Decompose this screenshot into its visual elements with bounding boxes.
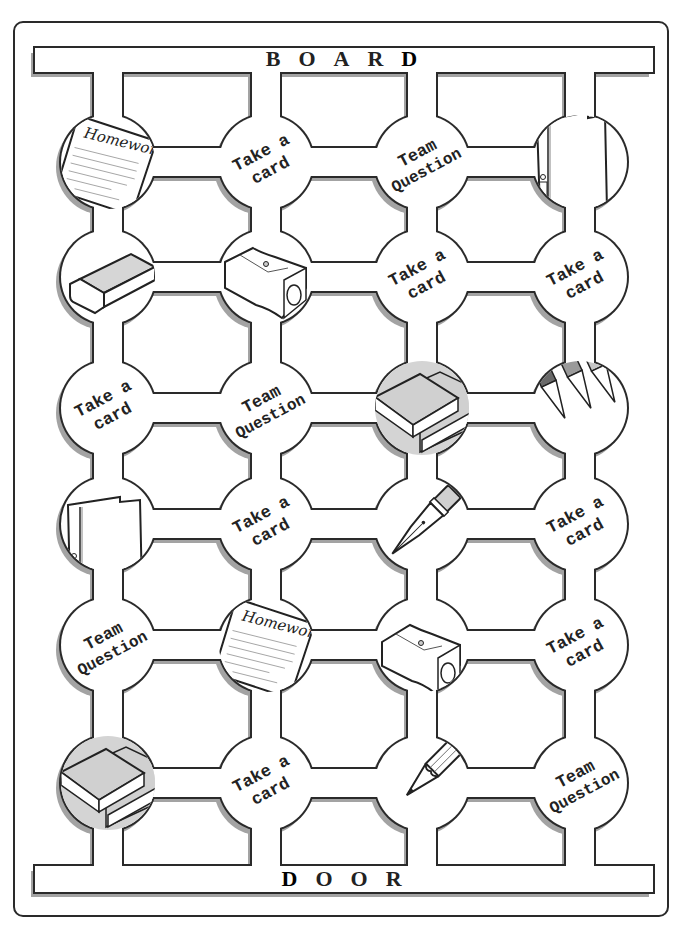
title-letter: A xyxy=(334,46,350,72)
title-letter: R xyxy=(386,866,402,892)
title-letter: B xyxy=(266,46,281,72)
title-letter: R xyxy=(367,46,383,72)
title-letter: D xyxy=(401,46,417,72)
title-letter: D xyxy=(281,866,297,892)
board-title-bottom: DOOR xyxy=(0,866,683,892)
board-title-top: BOARD xyxy=(0,46,683,72)
title-letter: O xyxy=(315,866,332,892)
title-letter: O xyxy=(298,46,315,72)
title-letter: O xyxy=(351,866,368,892)
